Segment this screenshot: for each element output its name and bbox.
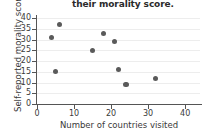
data-point <box>90 48 95 53</box>
data-point <box>123 82 128 87</box>
y-axis-tick-label-wrap: 0 <box>0 100 31 108</box>
y-axis-tick-label-wrap: 35 <box>0 25 31 33</box>
x-axis-label: Number of countries visited <box>36 120 202 130</box>
y-axis-tick-label-wrap: 40 <box>0 14 31 22</box>
scatter-chart-figure: their morality score. Self-reported mora… <box>0 0 216 134</box>
y-axis-tick-label-wrap: 15 <box>0 68 31 76</box>
data-point <box>49 35 54 40</box>
data-point <box>101 31 106 36</box>
y-axis-tick-label-wrap: 5 <box>0 89 31 97</box>
y-axis-tick-label-wrap: 10 <box>0 79 31 87</box>
x-axis-tick-label: 10 <box>62 109 86 118</box>
y-axis-tick-label: 15 <box>1 68 31 76</box>
y-axis-tick-label: 5 <box>1 89 31 97</box>
data-point <box>116 67 121 72</box>
x-axis-tick-label: 20 <box>99 109 123 118</box>
plot-area <box>37 16 200 104</box>
y-axis-tick-label: 0 <box>1 100 31 108</box>
y-axis-tick-label: 30 <box>1 36 31 44</box>
y-axis-tick-label: 25 <box>1 46 31 54</box>
y-axis-tick-label: 40 <box>1 14 31 22</box>
y-axis-tick-label: 20 <box>1 57 31 65</box>
data-point <box>53 69 58 74</box>
x-axis-line <box>36 104 202 105</box>
y-axis-tick-label-wrap: 30 <box>0 36 31 44</box>
y-axis-tick-label: 35 <box>1 25 31 33</box>
data-point <box>57 22 62 27</box>
chart-title: their morality score. <box>58 0 188 9</box>
y-axis-tick-label-wrap: 25 <box>0 46 31 54</box>
x-axis-tick-label: 40 <box>173 109 197 118</box>
data-point <box>153 76 158 81</box>
x-axis-tick-label: 30 <box>136 109 160 118</box>
data-point <box>112 39 117 44</box>
x-axis-tick-label: 0 <box>25 109 49 118</box>
y-axis-tick-label: 10 <box>1 79 31 87</box>
y-axis-tick-label-wrap: 20 <box>0 57 31 65</box>
